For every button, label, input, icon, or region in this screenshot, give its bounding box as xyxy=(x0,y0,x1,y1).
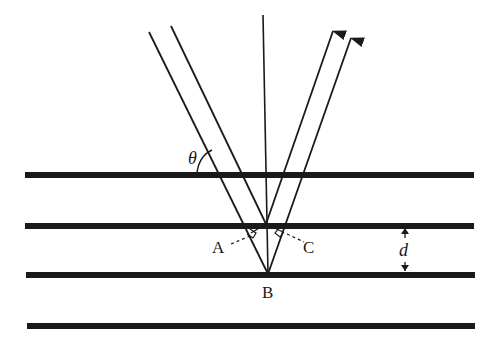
theta-arc xyxy=(197,150,212,173)
crystal-plane-3 xyxy=(26,272,475,278)
crystal-plane-2 xyxy=(25,223,474,229)
incident-ray-lower xyxy=(149,32,268,274)
incident-ray-upper xyxy=(171,26,266,224)
leader-c xyxy=(287,234,304,242)
point-c-label: C xyxy=(303,238,314,257)
crystal-plane-1 xyxy=(25,172,474,178)
bragg-diagram: θ A C B d xyxy=(0,0,496,345)
crystal-plane-4 xyxy=(27,323,475,329)
theta-label: θ xyxy=(188,148,197,168)
normal-line xyxy=(263,15,268,274)
leader-a xyxy=(231,236,250,244)
diffracted-ray-upper xyxy=(266,31,333,224)
spacing-label: d xyxy=(399,240,409,260)
point-a-label: A xyxy=(212,238,225,257)
point-b-label: B xyxy=(262,283,273,302)
